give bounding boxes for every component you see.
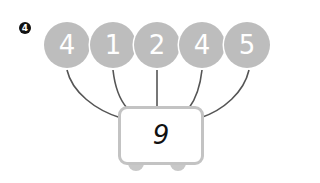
input-circle-3: 2: [134, 22, 180, 68]
wire-1: [67, 70, 121, 118]
input-circle-1: 4: [44, 22, 90, 68]
wire-4: [189, 70, 202, 108]
input-circle-4: 4: [179, 22, 225, 68]
input-circle-2: 1: [90, 22, 136, 68]
result-box: 9: [118, 106, 204, 165]
wire-2: [113, 70, 127, 108]
input-circle-5: 5: [224, 22, 270, 68]
wire-5: [200, 70, 249, 118]
